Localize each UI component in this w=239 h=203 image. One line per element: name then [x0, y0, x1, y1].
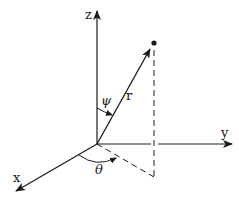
r-vector-label: r: [126, 88, 133, 103]
x-axis: [16, 144, 97, 191]
xy-plane-projection-line: [97, 144, 154, 177]
point-marker: [151, 40, 156, 45]
theta-angle-label: θ: [95, 162, 103, 177]
x-axis-label: x: [13, 170, 21, 185]
spherical-coordinate-diagram: z y x r ψ θ: [0, 0, 239, 203]
z-axis-label: z: [85, 7, 92, 22]
psi-angle-label: ψ: [101, 93, 112, 108]
psi-angle-arc: [97, 108, 112, 115]
y-axis-label: y: [220, 125, 229, 140]
